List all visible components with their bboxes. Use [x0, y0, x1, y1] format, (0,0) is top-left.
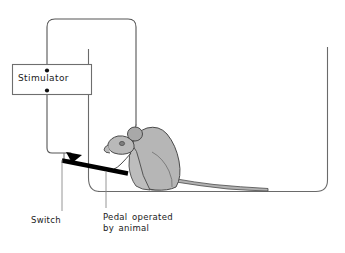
rat-tail	[176, 179, 268, 191]
top-terminal	[45, 68, 49, 72]
rat-eye	[119, 141, 124, 145]
switch-wire	[47, 91, 71, 153]
figure-canvas: Stimulator Switch Pedal operated by anim…	[0, 0, 345, 253]
bottom-terminal	[45, 88, 49, 92]
pedal-label-line1: Pedal operated	[103, 212, 173, 223]
pedal-label-line2: by animal	[103, 223, 149, 234]
rat-ear	[128, 127, 143, 141]
stimulator-label: Stimulator	[18, 73, 69, 84]
switch-label: Switch	[31, 215, 61, 226]
rat	[104, 127, 268, 191]
